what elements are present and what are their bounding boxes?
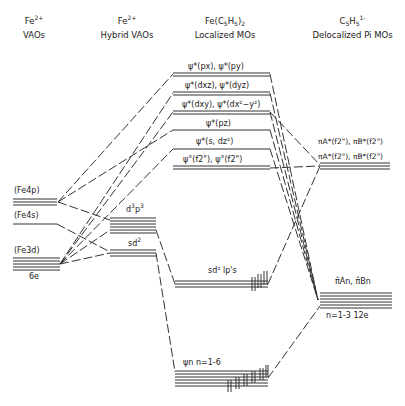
level-f2 xyxy=(173,166,270,169)
mo-diagram xyxy=(0,0,405,406)
label-dxy: ψ*(dxy), ψ*(dx²−y²) xyxy=(182,100,260,110)
label-fe3d-electrons: 6e xyxy=(29,272,39,282)
label-sd2: sd2 xyxy=(128,239,141,249)
level-fe4p xyxy=(13,199,57,205)
sup: 3 xyxy=(140,202,144,209)
level-d3p3 xyxy=(110,218,156,233)
label-sd2-lps: sd² lp's xyxy=(208,266,237,276)
sup: 2 xyxy=(137,236,141,243)
label-pi-bonding-count: n=1-3 12e xyxy=(326,311,368,321)
text: sd xyxy=(128,239,137,248)
label-f2: ψ°(f2"), ψ°(f2") xyxy=(183,155,242,165)
label-fe3d: (Fe3d) xyxy=(14,246,40,256)
label-pz: ψ*(pz) xyxy=(206,119,231,129)
label-pi-bonding: π̂An, π̂Bn xyxy=(335,277,371,287)
label-s-dz2: ψ*(s, dz²) xyxy=(196,137,233,147)
level-px-py xyxy=(173,73,270,76)
label-d3p3: d3p3 xyxy=(126,205,144,215)
level-pi-bonding xyxy=(320,293,392,308)
level-dxy xyxy=(173,111,270,114)
level-psi-n xyxy=(175,371,268,386)
label-pi-star-upper: πA*(f2"), πB*(f2") xyxy=(318,137,383,147)
label-fe4s: (Fe4s) xyxy=(14,211,39,221)
level-fe3d xyxy=(13,258,60,270)
label-dxz-dyz: ψ*(dxz), ψ*(dyz) xyxy=(185,81,249,91)
level-sd2-lps xyxy=(175,281,268,287)
level-dxz-dyz xyxy=(173,92,270,95)
label-px-py: ψ*(px), ψ*(py) xyxy=(188,62,244,72)
label-pi-star-lower: πA*(f2"), πB*(f2") xyxy=(318,152,383,162)
level-sd2 xyxy=(110,250,156,256)
label-psi-n: ψn n=1-6 xyxy=(183,358,221,368)
label-fe4p: (Fe4p) xyxy=(14,186,40,196)
level-pi-star xyxy=(320,163,390,169)
